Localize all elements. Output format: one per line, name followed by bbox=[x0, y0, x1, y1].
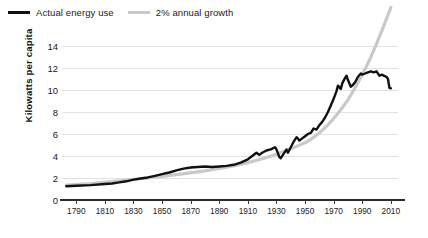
y-axis-tick-label: 6 bbox=[36, 129, 58, 140]
series-line-actual-energy-use bbox=[66, 71, 391, 186]
x-axis-tick-label: 1850 bbox=[153, 206, 171, 216]
x-axis-tick-mark bbox=[162, 200, 163, 204]
x-axis-tick-label: 1830 bbox=[124, 206, 142, 216]
x-axis-tick-mark bbox=[276, 200, 277, 204]
plot-area bbox=[62, 46, 398, 200]
y-axis-tick-label: 8 bbox=[36, 107, 58, 118]
y-axis-tick-labels: 02468101214 bbox=[36, 0, 58, 238]
y-axis-title: Kilowatts per capita bbox=[23, 6, 34, 146]
y-axis-tick-label: 4 bbox=[36, 151, 58, 162]
chart-figure: Actual energy use 2% annual growth Kilow… bbox=[0, 0, 428, 238]
line-swatch-gray-icon bbox=[128, 11, 150, 14]
x-axis-tick-label: 1970 bbox=[324, 206, 342, 216]
y-axis-tick-label: 2 bbox=[36, 173, 58, 184]
x-axis-line bbox=[60, 199, 405, 201]
x-axis-tick-label: 1930 bbox=[267, 206, 285, 216]
x-axis-tick-mark bbox=[219, 200, 220, 204]
y-axis-tick-label: 0 bbox=[36, 195, 58, 206]
x-axis-tick-mark bbox=[248, 200, 249, 204]
x-axis-tick-mark bbox=[105, 200, 106, 204]
legend-label-2-percent-annual-growth: 2% annual growth bbox=[156, 7, 234, 18]
x-axis-tick-label: 1810 bbox=[96, 206, 114, 216]
x-axis-tick-mark bbox=[76, 200, 77, 204]
x-axis-tick-label: 1890 bbox=[210, 206, 228, 216]
x-axis-tick-label: 1990 bbox=[353, 206, 371, 216]
x-axis-tick-label: 1910 bbox=[239, 206, 257, 216]
x-axis-tick-label: 1950 bbox=[296, 206, 314, 216]
x-axis-tick-mark bbox=[191, 200, 192, 204]
x-axis-tick-label: 1790 bbox=[67, 206, 85, 216]
series-line-2-percent-annual-growth bbox=[66, 8, 391, 186]
x-axis-tick-mark bbox=[391, 200, 392, 204]
x-axis-tick-label: 1870 bbox=[181, 206, 199, 216]
x-axis-tick-mark bbox=[305, 200, 306, 204]
legend-item-2-percent-annual-growth: 2% annual growth bbox=[128, 7, 234, 18]
y-axis-tick-label: 10 bbox=[36, 85, 58, 96]
x-axis-tick-mark bbox=[362, 200, 363, 204]
y-axis-tick-label: 14 bbox=[36, 41, 58, 52]
x-axis-tick-label: 2010 bbox=[382, 206, 400, 216]
y-axis-tick-label: 12 bbox=[36, 63, 58, 74]
x-axis-tick-mark bbox=[133, 200, 134, 204]
series-lines bbox=[62, 46, 398, 200]
x-axis-tick-mark bbox=[334, 200, 335, 204]
